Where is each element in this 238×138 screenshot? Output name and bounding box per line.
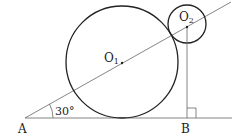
center-dot-o2 bbox=[186, 26, 188, 28]
point-label-o2: O2 bbox=[179, 10, 194, 25]
angle-arc bbox=[50, 104, 54, 118]
point-label-a: A bbox=[17, 122, 27, 136]
right-angle-marker bbox=[187, 108, 196, 118]
point-label-b: B bbox=[181, 122, 190, 136]
geometry-diagram: 30° A B O1 O2 bbox=[0, 0, 238, 138]
angle-label: 30° bbox=[55, 105, 75, 118]
point-label-o1: O1 bbox=[104, 51, 119, 66]
center-dot-o1 bbox=[121, 62, 123, 64]
tangent-ray bbox=[25, 2, 231, 118]
